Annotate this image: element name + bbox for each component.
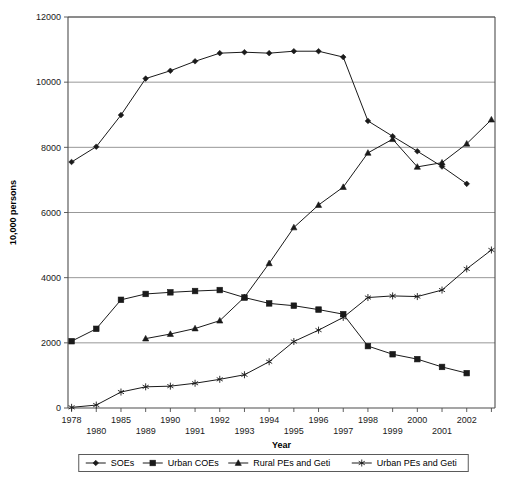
x-tick-label: 1994 <box>259 415 279 425</box>
data-point <box>118 297 124 303</box>
data-point <box>192 59 198 65</box>
x-tick-label: 1997 <box>333 426 353 436</box>
data-point <box>192 288 198 294</box>
x-tick-label: 1980 <box>86 426 106 436</box>
y-tick-label: 10000 <box>36 77 61 87</box>
x-tick-label: 2000 <box>407 415 427 425</box>
data-point <box>69 338 75 344</box>
y-tick-label: 6000 <box>41 208 61 218</box>
y-tick-label: 12000 <box>36 12 61 22</box>
data-point <box>143 291 149 297</box>
x-tick-label: 1985 <box>111 415 131 425</box>
x-tick-label: 1991 <box>185 426 205 436</box>
legend-label: Urban COEs <box>168 458 220 468</box>
series-soes <box>69 48 470 186</box>
data-point <box>168 290 174 296</box>
data-point <box>316 307 322 313</box>
data-point <box>365 150 371 156</box>
legend-label: Urban PEs and Geti <box>377 458 457 468</box>
x-tick-label: 1998 <box>358 415 378 425</box>
x-axis-ticks: 1978198019851989199019911992199319941995… <box>62 408 492 436</box>
y-axis-title: 10,000 persons <box>8 180 18 245</box>
data-point <box>316 48 322 54</box>
data-point <box>217 287 223 293</box>
data-point <box>415 148 421 154</box>
y-tick-label: 2000 <box>41 338 61 348</box>
data-series <box>69 48 495 410</box>
x-tick-label: 1992 <box>210 415 230 425</box>
y-tick-label: 4000 <box>41 273 61 283</box>
data-point <box>93 326 99 332</box>
data-point <box>168 68 174 74</box>
x-tick-label: 1978 <box>62 415 82 425</box>
data-point <box>340 54 346 60</box>
x-tick-label: 1999 <box>383 426 403 436</box>
data-point <box>266 358 272 365</box>
series-line <box>146 120 492 339</box>
data-point <box>69 159 75 165</box>
chart-legend: SOEsUrban COEsRural PEs and GetiUrban PE… <box>79 455 469 472</box>
data-point <box>439 159 445 165</box>
data-point <box>488 116 494 122</box>
legend-label: SOEs <box>111 458 135 468</box>
x-tick-label: 1990 <box>160 415 180 425</box>
x-tick-label: 2002 <box>457 415 477 425</box>
data-point <box>439 364 445 370</box>
data-point <box>464 370 470 376</box>
chart-container: 020004000600080001000012000 197819801985… <box>0 0 507 481</box>
data-point <box>488 246 494 253</box>
data-point <box>415 356 421 362</box>
data-point <box>266 301 272 307</box>
data-point <box>365 118 371 124</box>
x-axis-title: Year <box>272 440 292 450</box>
data-point <box>266 50 272 56</box>
series-urban-pes-and-geti <box>69 246 495 410</box>
data-point <box>365 343 371 349</box>
data-point <box>291 303 297 309</box>
y-axis-label-text: 10,000 persons <box>8 180 18 245</box>
data-point <box>217 50 223 56</box>
grid-lines <box>68 17 495 343</box>
data-point <box>291 48 297 54</box>
y-axis-ticks: 020004000600080001000012000 <box>36 12 68 413</box>
legend-label: Rural PEs and Geti <box>253 458 330 468</box>
data-point <box>143 76 149 82</box>
x-axis-label-text: Year <box>272 440 292 450</box>
data-point <box>242 49 248 55</box>
legend-marker-square-icon <box>150 460 156 466</box>
x-tick-label: 1989 <box>136 426 156 436</box>
data-point <box>316 327 322 334</box>
y-tick-label: 8000 <box>41 143 61 153</box>
data-point <box>390 351 396 357</box>
x-tick-label: 1995 <box>284 426 304 436</box>
x-tick-label: 2001 <box>432 426 452 436</box>
employment-line-chart: 020004000600080001000012000 197819801985… <box>0 0 507 481</box>
y-tick-label: 0 <box>56 403 61 413</box>
data-point <box>315 202 321 208</box>
data-point <box>291 338 297 345</box>
x-tick-label: 1996 <box>309 415 329 425</box>
x-tick-label: 1993 <box>234 426 254 436</box>
series-line <box>72 51 467 184</box>
series-line <box>72 250 492 407</box>
